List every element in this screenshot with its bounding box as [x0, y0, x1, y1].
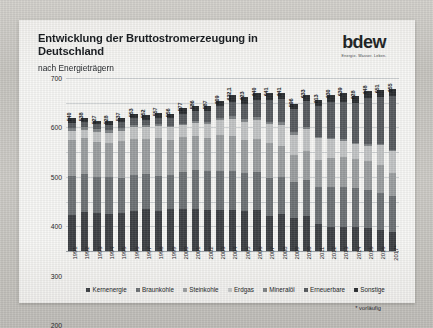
bar-column[interactable]: 556 [165, 78, 177, 251]
bar-value-label: 556 [165, 108, 171, 117]
x-axis-tick-label: 1992 [84, 246, 90, 259]
stacked-bar[interactable]: 651 [377, 90, 384, 251]
bar-segment [167, 209, 174, 251]
bar-column[interactable]: 630 [325, 78, 337, 251]
bar-column[interactable]: 640 [251, 78, 263, 251]
x-axis-tick: 2008 [276, 252, 288, 280]
legend-item[interactable]: Erneuerbare [304, 286, 345, 293]
bar-segment [229, 210, 236, 251]
stacked-bar[interactable]: 528 [105, 121, 112, 251]
bar-segment [216, 106, 223, 117]
bar-value-label: 552 [140, 109, 146, 118]
bar-column[interactable]: 596 [288, 78, 300, 251]
stacked-bar[interactable]: 553 [130, 114, 137, 251]
stacked-bar[interactable]: 596 [290, 104, 297, 251]
bar-column[interactable]: 540 [66, 78, 78, 251]
stacked-bar[interactable]: 648 [364, 91, 371, 251]
legend-item[interactable]: Erdgas [228, 286, 254, 293]
bar-segment [192, 123, 199, 137]
bar-segment [68, 131, 75, 140]
bar-column[interactable]: 641 [263, 78, 275, 251]
x-axis-ticks: 1991199219931994199519961997199819992000… [66, 252, 399, 280]
bar-segment [340, 141, 347, 158]
stacked-bar[interactable]: 632,1 [229, 95, 236, 251]
stacked-bar[interactable]: 556 [167, 114, 174, 251]
bar-column[interactable]: 609 [214, 78, 226, 251]
stacked-bar[interactable]: 655 [389, 89, 396, 251]
stacked-bar[interactable]: 538 [81, 118, 88, 251]
stacked-bar[interactable]: 633 [303, 95, 310, 251]
bar-column[interactable]: 613 [313, 78, 325, 251]
bar-segment [130, 127, 137, 139]
stacked-bar[interactable]: 613 [315, 100, 322, 251]
bar-column[interactable]: 527 [91, 78, 103, 251]
legend-item[interactable]: Sonstige [354, 286, 385, 293]
bar-column[interactable]: 537 [115, 78, 127, 251]
bar-segment [93, 142, 100, 177]
x-axis-tick-label: 2009 [294, 246, 300, 259]
stacked-bar[interactable]: 630 [327, 95, 334, 251]
stacked-bar[interactable]: 639 [340, 93, 347, 251]
x-axis-tick-label: 2016 [380, 246, 386, 259]
bar-column[interactable]: 655 [387, 78, 399, 251]
bar-segment [118, 131, 125, 142]
bar-segment [253, 100, 260, 118]
stacked-bar[interactable]: 586 [192, 106, 199, 251]
bar-column[interactable]: 633 [300, 78, 312, 251]
stacked-bar[interactable]: 540 [68, 118, 75, 251]
bar-value-label: 540 [66, 112, 72, 121]
bar-value-label: 641 [263, 87, 269, 96]
bar-column[interactable]: 538 [78, 78, 90, 251]
x-axis-tick: 2002 [202, 252, 214, 280]
legend-item[interactable]: Mineralöl [263, 286, 295, 293]
stacked-bar[interactable]: 641 [278, 93, 285, 251]
bar-value-label: 613 [313, 94, 319, 103]
bar-segment [118, 178, 125, 213]
stacked-bar[interactable]: 537 [118, 118, 125, 251]
stacked-bar[interactable]: 552 [142, 115, 149, 251]
x-axis-tick: 1994 [103, 252, 115, 280]
bar-segment [105, 214, 112, 251]
bar-value-label: 623 [239, 92, 245, 101]
bar-column[interactable]: 639 [337, 78, 349, 251]
stacked-bar[interactable]: 527 [93, 121, 100, 251]
legend-item[interactable]: Steinkohle [183, 286, 219, 293]
bar-segment [290, 135, 297, 155]
stacked-bar[interactable]: 609 [216, 101, 223, 252]
bar-segment [303, 101, 310, 127]
stacked-bar[interactable]: 557 [155, 113, 162, 251]
bar-column[interactable]: 553 [128, 78, 140, 251]
x-axis-tick-label: 1994 [109, 246, 115, 259]
bar-column[interactable]: 651 [374, 78, 386, 251]
stacked-bar[interactable]: 587 [204, 106, 211, 251]
legend-item[interactable]: Kernenergie [86, 286, 127, 293]
x-axis-tick: 2007 [263, 252, 275, 280]
bar-column[interactable]: 586 [189, 78, 201, 251]
bar-column[interactable]: 587 [202, 78, 214, 251]
bar-column[interactable]: 628 [350, 78, 362, 251]
stacked-bar[interactable]: 623 [241, 97, 248, 251]
bar-column[interactable]: 632,1 [226, 78, 238, 251]
stacked-bar[interactable]: 628 [352, 96, 359, 251]
bar-segment [327, 102, 334, 137]
y-axis-tick: 200 [51, 322, 62, 328]
bar-column[interactable]: 528 [103, 78, 115, 251]
bar-column[interactable]: 641 [276, 78, 288, 251]
stacked-bar[interactable]: 577 [179, 108, 186, 251]
bar-column[interactable]: 552 [140, 78, 152, 251]
bar-column[interactable]: 557 [152, 78, 164, 251]
stacked-bar[interactable]: 641 [266, 93, 273, 251]
bar-value-label: 648 [362, 85, 368, 94]
bar-column[interactable]: 577 [177, 78, 189, 251]
bar-value-label: 538 [78, 113, 84, 122]
bdew-logo: bdew Energie. Wasser. Leben. [327, 33, 401, 58]
x-axis-tick-label: 2006 [257, 246, 263, 259]
x-axis-tick: 2005 [239, 252, 251, 280]
bar-segment [327, 187, 334, 227]
legend-item[interactable]: Braunkohle [136, 286, 174, 293]
bar-column[interactable]: 623 [239, 78, 251, 251]
bar-segment [130, 211, 137, 251]
bar-column[interactable]: 648 [362, 78, 374, 251]
stacked-bar[interactable]: 640 [253, 93, 260, 251]
bar-value-label: 587 [202, 101, 208, 110]
